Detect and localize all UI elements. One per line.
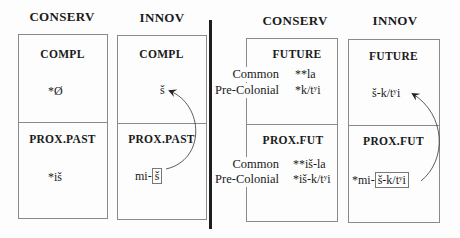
label-future: FUTURE: [348, 50, 439, 62]
header-conserv-right: CONSERV: [250, 13, 340, 29]
dialect-label-precolonial: Pre-Colonial: [214, 83, 280, 98]
box-conserv-future: [246, 38, 338, 222]
dialect-label-precolonial: Pre-Colonial: [214, 172, 280, 187]
label-prox-fut: PROX.FUT: [250, 134, 336, 146]
divider: [117, 123, 206, 124]
form-zero: *Ø: [48, 84, 63, 99]
box-conserv-compl: [18, 34, 108, 219]
header-innov-left: INNOV: [117, 10, 207, 26]
box-innov-future: [348, 39, 440, 223]
boxed-morpheme: š-k/tʸi: [375, 172, 409, 188]
label-compl: COMPL: [117, 48, 206, 60]
form-kty: *k/tʸi: [295, 83, 321, 98]
prefix: mi-: [135, 169, 152, 183]
label-prox-past: PROX.PAST: [18, 133, 107, 145]
label-compl: COMPL: [18, 48, 107, 60]
divider: [348, 125, 439, 126]
divider: [246, 124, 337, 125]
form-sh-kty: š-k/tʸi: [372, 86, 400, 101]
label-future: FUTURE: [258, 48, 336, 60]
header-conserv-left: CONSERV: [14, 9, 110, 25]
dialect-label-common: Common: [231, 157, 280, 172]
divider: [18, 122, 107, 123]
dialect-label-common: Common: [231, 67, 280, 82]
box-innov-compl: [117, 35, 207, 220]
form-la: **la: [295, 67, 316, 82]
label-prox-fut: PROX.FUT: [348, 135, 439, 147]
boxed-morpheme: š: [152, 168, 163, 184]
panel-separator: [209, 20, 212, 229]
prefix: *mi-: [352, 173, 375, 187]
form-is-kty: *iš-k/tʸi: [293, 172, 331, 187]
form-mi-sh: mi-š: [135, 169, 162, 184]
form-sh: š: [160, 83, 165, 98]
header-innov-right: INNOV: [350, 13, 440, 29]
form-is: *iš: [48, 170, 62, 185]
form-is-la: **iš-la: [293, 157, 326, 172]
label-prox-past: PROX.PAST: [117, 133, 206, 145]
form-mi-sh-kty: *mi-š-k/tʸi: [352, 173, 409, 188]
